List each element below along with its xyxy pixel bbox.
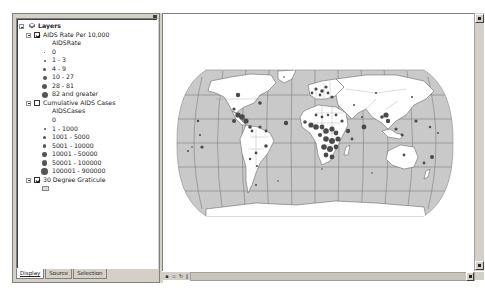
layer-visibility-checkbox[interactable]: [34, 100, 40, 106]
legend-class-label: 1 - 3: [52, 56, 66, 65]
scroll-down-button[interactable]: [475, 261, 484, 270]
tab-source[interactable]: Source: [45, 269, 72, 279]
layer-name: AIDS Rate Per 10,000: [43, 31, 109, 40]
legend-class-label: 10 - 27: [52, 73, 74, 82]
point-symbol-icon: [41, 168, 48, 175]
point-symbol-icon: [43, 68, 46, 71]
collapse-icon[interactable]: [26, 101, 31, 106]
legend-field-name: AIDSRate: [52, 39, 81, 48]
scroll-right-button[interactable]: [466, 272, 474, 281]
legend-class-label: 100001 - 900000: [52, 167, 105, 176]
layer-name: 30 Degree Graticule: [43, 176, 105, 185]
point-symbol-icon: [43, 76, 47, 80]
legend-field-name: AIDSCases: [52, 107, 85, 116]
layer-visibility-checkbox[interactable]: [34, 177, 40, 183]
tab-display[interactable]: Display: [16, 269, 44, 279]
layers-icon: [28, 23, 36, 29]
layout-view-icon[interactable]: ▪: [164, 273, 170, 279]
legend-class-label: 28 - 81: [52, 82, 74, 91]
collapse-icon[interactable]: [19, 24, 24, 29]
legend-class-label: 0: [52, 116, 56, 125]
legend-class-label: 50001 - 100000: [52, 159, 101, 168]
layer-visibility-checkbox[interactable]: [34, 32, 40, 38]
vertical-scrollbar[interactable]: [474, 13, 484, 271]
layer-tree-container: Layers AIDS Rate Per 10,000 AIDSRate 0 1…: [16, 18, 158, 269]
legend-class-label: 5001 - 10000: [52, 142, 94, 151]
point-symbol-icon: [42, 84, 47, 89]
world-map[interactable]: [176, 69, 454, 217]
map-navigation-bar: ▪ ▫ ↻ ‖ ◂: [162, 271, 484, 280]
layer-name: Cumulative AIDS Cases: [43, 99, 115, 108]
collapse-icon[interactable]: [26, 33, 31, 38]
point-symbol-icon: [43, 144, 47, 148]
point-symbol-icon: [44, 128, 46, 130]
legend-class-label: 4 - 9: [52, 65, 66, 74]
horizontal-scrollbar[interactable]: [190, 272, 475, 281]
point-symbol-icon: [43, 136, 46, 139]
legend-class-label: 1001 - 5000: [52, 133, 90, 142]
tab-selection[interactable]: Selection: [73, 269, 106, 279]
table-of-contents-panel: Layers AIDS Rate Per 10,000 AIDSRate 0 1…: [12, 13, 160, 283]
data-view-icon[interactable]: ▫: [171, 273, 177, 279]
collapse-icon[interactable]: [26, 178, 31, 183]
layers-root-label: Layers: [38, 22, 61, 31]
legend-class-label: 1 - 1000: [52, 125, 78, 134]
scroll-up-button[interactable]: [475, 14, 484, 23]
legend-class-label: 10001 - 50000: [52, 150, 98, 159]
point-symbol-icon: [44, 60, 46, 62]
point-symbol-icon: [42, 152, 47, 157]
point-symbol-icon: [42, 160, 48, 166]
legend-class-label: 0: [52, 48, 56, 57]
point-symbol-icon: [44, 52, 45, 53]
toc-tabs: Display Source Selection: [16, 269, 108, 279]
point-symbol-icon: [42, 92, 48, 98]
legend-class-label: 82 and greater: [52, 90, 98, 99]
fill-symbol-icon: [42, 186, 49, 191]
